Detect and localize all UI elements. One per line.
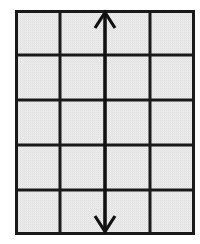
grid-arrow-diagram: [0, 0, 200, 244]
figure-container: Vertical double-headed arrow spanning a …: [0, 0, 200, 244]
